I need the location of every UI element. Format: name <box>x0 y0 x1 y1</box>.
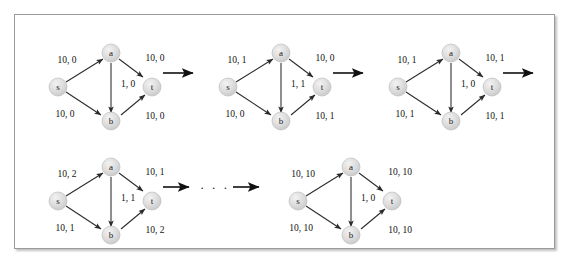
node-label-b: b <box>449 116 454 126</box>
edge-label-s-a: 10, 10 <box>291 169 315 179</box>
graph-step-1: s a b t 10, 0 10, 0 1, 0 10, 0 10, 0 <box>31 27 191 147</box>
node-label-s: s <box>56 82 60 92</box>
node-label-a: a <box>449 48 453 58</box>
edge-a-t <box>119 59 143 77</box>
edge-b-t <box>121 209 145 229</box>
edge-label-a-b: 1, 1 <box>121 193 136 203</box>
node-label-a: a <box>279 48 283 58</box>
edge-label-a-t: 10, 0 <box>316 53 335 63</box>
edge-a-t <box>459 59 483 77</box>
edge-label-s-b: 10, 1 <box>56 223 75 233</box>
edge-a-t <box>119 173 143 191</box>
edge-label-s-b: 10, 0 <box>226 109 245 119</box>
edge-label-a-t: 10, 0 <box>146 53 165 63</box>
node-label-s: s <box>296 196 300 206</box>
figure-root: s a b t 10, 0 10, 0 1, 0 10, 0 10, 0 <box>0 0 568 269</box>
edge-label-s-b: 10, 10 <box>289 223 313 233</box>
edge-b-t <box>361 209 385 229</box>
edge-label-s-a: 10, 0 <box>58 55 77 65</box>
node-label-b: b <box>109 230 114 240</box>
edge-label-s-b: 10, 0 <box>56 109 75 119</box>
edge-label-s-a: 10, 1 <box>228 55 247 65</box>
edge-label-a-b: 1, 0 <box>361 193 376 203</box>
transition-arrow-3 <box>501 65 541 81</box>
node-label-s: s <box>56 196 60 206</box>
edge-label-s-a: 10, 1 <box>398 55 417 65</box>
node-label-a: a <box>109 48 113 58</box>
graph-step-5: s a b t 10, 10 10, 10 1, 0 10, 10 10, 10 <box>271 141 431 261</box>
node-label-b: b <box>279 116 284 126</box>
graph-step-4: s a b t 10, 2 10, 1 1, 1 10, 1 10, 2 <box>31 141 191 261</box>
node-label-s: s <box>396 82 400 92</box>
transition-arrow-1 <box>161 65 201 81</box>
edge-label-a-t: 10, 10 <box>388 167 412 177</box>
edge-label-b-t: 10, 0 <box>146 111 165 121</box>
graph-step-2: s a b t 10, 1 10, 0 1, 1 10, 0 10, 1 <box>201 27 361 147</box>
edge-b-t <box>291 95 315 115</box>
edge-b-t <box>121 95 145 115</box>
edge-label-a-b: 1, 0 <box>121 79 136 89</box>
edge-label-s-b: 10, 1 <box>396 109 415 119</box>
edge-label-a-t: 10, 1 <box>486 53 505 63</box>
edge-a-t <box>359 173 383 191</box>
edge-a-t <box>289 59 313 77</box>
graph-step-3: s a b t 10, 1 10, 1 1, 0 10, 1 10, 1 <box>371 27 531 147</box>
node-label-b: b <box>349 230 354 240</box>
node-label-s: s <box>226 82 230 92</box>
edge-label-a-b: 1, 0 <box>461 79 476 89</box>
edge-label-b-t: 10, 2 <box>146 225 165 235</box>
edge-label-b-t: 10, 10 <box>388 225 412 235</box>
transition-arrow-4 <box>161 179 197 195</box>
edge-label-b-t: 10, 1 <box>316 111 335 121</box>
ellipsis-separator: · · · <box>200 181 230 194</box>
edge-label-a-b: 1, 1 <box>291 79 306 89</box>
edge-label-a-t: 10, 1 <box>146 167 165 177</box>
edge-label-b-t: 10, 1 <box>486 111 505 121</box>
figure-frame: s a b t 10, 0 10, 0 1, 0 10, 0 10, 0 <box>14 14 555 249</box>
node-label-a: a <box>109 162 113 172</box>
transition-arrow-5 <box>231 179 267 195</box>
node-label-b: b <box>109 116 114 126</box>
edge-b-t <box>461 95 485 115</box>
edge-label-s-a: 10, 2 <box>58 169 77 179</box>
node-label-a: a <box>349 162 353 172</box>
transition-arrow-2 <box>331 65 371 81</box>
